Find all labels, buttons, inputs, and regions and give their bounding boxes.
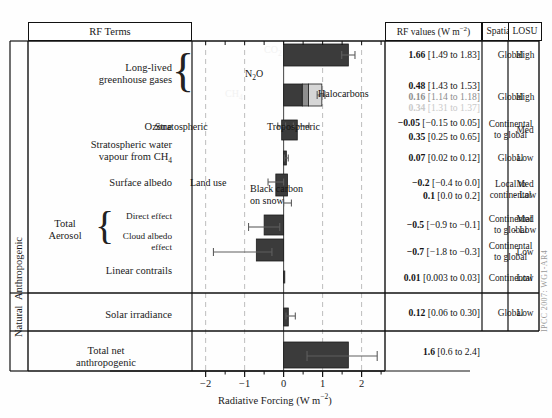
annotation-stratospheric: Stratospheric <box>155 121 208 132</box>
term-cloud-albedo-effect: Cloud albedo effect <box>104 231 172 253</box>
rf-value-range: [0.6 to 2.4] <box>435 346 480 357</box>
header-losu-label: LOSU <box>512 26 537 37</box>
side-label-natural: Natural <box>13 306 24 338</box>
rf-value-range: [0.02 to 0.12] <box>425 152 480 163</box>
term-solar-irradiance: Solar irradiance <box>52 309 172 321</box>
rf-value-central: 1.66 <box>409 49 426 60</box>
rf-value: 0.12 [0.06 to 0.30] <box>387 307 480 318</box>
rf-value-range: [−0.9 to −0.1] <box>424 219 480 230</box>
losu-line: - Low <box>514 190 537 201</box>
rf-value: 1.6 [0.6 to 2.4] <box>387 346 480 357</box>
rf-value: 0.01 [0.003 to 0.03] <box>387 272 480 283</box>
rf-value-central: −0.2 <box>412 177 429 188</box>
rf-value-range: [1.31 to 1.37] <box>425 102 480 113</box>
rf-value: 0.07 [0.02 to 0.12] <box>387 152 480 163</box>
figure-root: RF Terms RF values (W m−2) Spatial scale… <box>0 0 552 418</box>
x-tick-label: −1 <box>233 378 257 389</box>
term-surface-albedo: Surface albedo <box>60 177 172 189</box>
header-rf-values: RF values (W m−2) <box>385 22 482 41</box>
rf-value: 0.1 [0.0 to 0.2] <box>387 190 480 201</box>
losu-cell: Med- Low <box>508 176 542 204</box>
rf-value: −0.5 [−0.9 to −0.1] <box>387 219 480 230</box>
losu-cell: High <box>508 41 542 69</box>
losu-line: Low <box>516 153 533 164</box>
term-linear-contrails: Linear contrails <box>52 265 172 277</box>
annotation-ch4: CH4 <box>225 88 243 102</box>
losu-cell: Low <box>508 144 542 172</box>
rf-value-range: [0.003 to 0.03] <box>421 272 480 283</box>
rf-value-central: 0.01 <box>404 272 421 283</box>
rf-value-central: 0.48 <box>409 80 426 91</box>
rf-value-central: −0.5 <box>407 219 424 230</box>
x-tick-label: 2 <box>350 378 374 389</box>
rf-value: 0.34 [1.31 to 1.37] <box>387 102 480 113</box>
header-rf-values-label: RF values (W m−2) <box>397 26 471 38</box>
rf-value-range: [0.0 to 0.2] <box>435 190 480 201</box>
x-axis-title: Radiative Forcing (W m−2) <box>218 392 332 406</box>
side-label-anthropogenic: Anthropogenic <box>13 237 24 300</box>
losu-cell: Low <box>508 238 542 266</box>
rf-value-range: [0.06 to 0.30] <box>425 307 480 318</box>
rf-value-range: [1.43 to 1.53] <box>425 80 480 91</box>
header-rf-terms: RF Terms <box>28 22 192 41</box>
rf-value-range: [1.49 to 1.83] <box>425 49 480 60</box>
header-rf-terms-label: RF Terms <box>89 26 130 38</box>
losu-line: Med <box>516 214 533 225</box>
rf-value: 0.48 [1.43 to 1.53] <box>387 80 480 91</box>
rf-value-central: 0.34 <box>409 102 426 113</box>
annotation-tropospheric: Tropospheric <box>267 121 320 132</box>
losu-line: High <box>516 92 535 103</box>
losu-line: - Low <box>514 225 537 236</box>
rf-value-central: 0.1 <box>423 190 435 201</box>
rf-value-range: [−1.8 to −0.3] <box>424 246 480 257</box>
losu-cell: Med- Low <box>508 211 542 239</box>
annotation-halocarbons: Halocarbons <box>318 88 369 99</box>
term-total-aerosol: Total Aerosol <box>36 218 94 243</box>
term-long-lived-ghg: Long-lived greenhouse gases <box>40 62 172 87</box>
losu-line: Low <box>516 273 533 284</box>
rf-value: −0.7 [−1.8 to −0.3] <box>387 246 480 257</box>
rf-value: 1.66 [1.49 to 1.83] <box>387 49 480 60</box>
losu-cell: High <box>508 83 542 111</box>
rf-value: −0.05 [−0.15 to 0.05] <box>387 117 480 128</box>
losu-line: Low <box>516 247 533 258</box>
x-tick-label: −2 <box>194 378 218 389</box>
rf-value-central: −0.05 <box>398 117 420 128</box>
losu-line: Med <box>516 179 533 190</box>
rf-value-range: [0.25 to 0.65] <box>425 131 480 142</box>
rf-value: −0.2 [−0.4 to 0.0] <box>387 177 480 188</box>
losu-cell: Low <box>508 299 542 327</box>
rf-value-central: 0.16 <box>409 91 426 102</box>
annotation-black-carbon: Black carbon on snow <box>250 183 303 206</box>
term-strat-water-vapour: Stratospheric water vapour from CH4 <box>36 139 172 166</box>
term-direct-effect: Direct effect <box>106 211 172 222</box>
rf-value-central: 0.07 <box>409 152 426 163</box>
rf-value-central: 0.12 <box>409 307 426 318</box>
term-total-net-anthropogenic: Total net anthropogenic <box>40 345 172 370</box>
annotation-co2: CO2 <box>264 44 282 58</box>
brace-llghg: { <box>172 48 194 94</box>
rf-value: 0.16 [1.14 to 1.18] <box>387 91 480 102</box>
losu-line: Low <box>516 308 533 319</box>
annotation-land-use: Land use <box>190 177 226 188</box>
rf-value-central: 1.6 <box>423 346 435 357</box>
x-tick-label: 0 <box>272 378 296 389</box>
rf-value-range: [−0.4 to 0.0] <box>430 177 480 188</box>
losu-cell: Med <box>508 116 542 144</box>
rf-value-range: [−0.15 to 0.05] <box>420 117 480 128</box>
losu-cell: Low <box>508 264 542 292</box>
x-tick-label: 1 <box>311 378 335 389</box>
losu-line: Med <box>516 125 533 136</box>
annotation-n2o: N2O <box>245 68 263 82</box>
rf-value-central: 0.35 <box>409 131 426 142</box>
rf-value-range: [1.14 to 1.18] <box>425 91 480 102</box>
rf-value: 0.35 [0.25 to 0.65] <box>387 131 480 142</box>
losu-line: High <box>516 50 535 61</box>
header-losu: LOSU <box>508 22 542 41</box>
rf-value-central: −0.7 <box>407 246 424 257</box>
